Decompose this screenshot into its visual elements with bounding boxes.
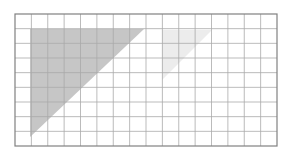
grid-triangles-figure (0, 0, 292, 159)
figure-canvas (0, 0, 292, 159)
